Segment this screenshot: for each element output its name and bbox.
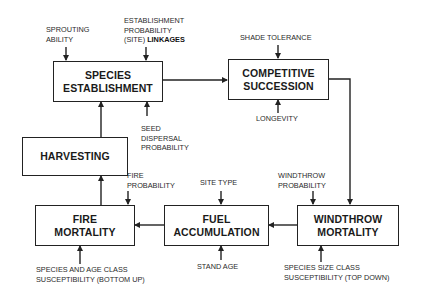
label-text: (SITE) bbox=[124, 35, 145, 44]
label-line: SHADE TOLERANCE bbox=[240, 33, 312, 43]
label-line: FIRE bbox=[127, 171, 175, 181]
site-type-label: SITE TYPE bbox=[200, 178, 237, 188]
box-label-line: COMPETITIVE bbox=[242, 67, 314, 80]
box-label-line: SPECIES bbox=[63, 69, 153, 82]
box-label-line: SUCCESSION bbox=[242, 80, 314, 93]
label-line: SPROUTING bbox=[46, 25, 89, 35]
fuel-accumulation-box: FUEL ACCUMULATION bbox=[164, 205, 269, 246]
fire-probability-label: FIRE PROBABILITY bbox=[127, 171, 175, 190]
label-line: DISPERSAL bbox=[141, 134, 189, 144]
box-label-line: FUEL bbox=[173, 213, 259, 226]
label-line: SUSCEPTIBILITY (BOTTOM UP) bbox=[36, 275, 145, 285]
label-line: SPECIES AND AGE CLASS bbox=[36, 265, 145, 275]
label-line: WINDTHROW bbox=[278, 171, 326, 181]
label-line: PROBABILITY bbox=[124, 26, 185, 36]
longevity-label: LONGEVITY bbox=[256, 114, 298, 124]
windthrow-mortality-box: WINDTHROW MORTALITY bbox=[297, 205, 399, 246]
label-line: (SITE) LINKAGES bbox=[124, 35, 185, 45]
stand-age-label: STAND AGE bbox=[197, 262, 238, 272]
label-line: STAND AGE bbox=[197, 262, 238, 272]
forest-dynamics-diagram: SPECIES ESTABLISHMENT COMPETITIVE SUCCES… bbox=[0, 0, 421, 302]
box-label-line: MORTALITY bbox=[314, 226, 383, 239]
box-label-line: FIRE bbox=[54, 213, 115, 226]
shade-tolerance-label: SHADE TOLERANCE bbox=[240, 33, 312, 43]
box-label-line: HARVESTING bbox=[40, 150, 110, 163]
species-age-class-label: SPECIES AND AGE CLASS SUSCEPTIBILITY (BO… bbox=[36, 265, 145, 284]
label-line: PROBABILITY bbox=[127, 181, 175, 191]
linkages-bold-text: LINKAGES bbox=[147, 35, 185, 44]
label-line: SUSCEPTIBILITY (TOP DOWN) bbox=[284, 273, 389, 283]
label-line: SPECIES SIZE CLASS bbox=[284, 263, 389, 273]
species-establishment-box: SPECIES ESTABLISHMENT bbox=[53, 61, 163, 102]
sprouting-ability-label: SPROUTING ABILITY bbox=[46, 25, 89, 44]
label-line: ESTABLISHMENT bbox=[124, 16, 185, 26]
arrow-succession-to-windthrow bbox=[329, 79, 350, 204]
label-line: ABILITY bbox=[46, 35, 89, 45]
fire-mortality-box: FIRE MORTALITY bbox=[35, 205, 135, 246]
label-line: PROBABILITY bbox=[278, 181, 326, 191]
seed-dispersal-label: SEED DISPERSAL PROBABILITY bbox=[141, 124, 189, 153]
box-label-line: ACCUMULATION bbox=[173, 226, 259, 239]
harvesting-box: HARVESTING bbox=[22, 137, 128, 176]
box-label-line: MORTALITY bbox=[54, 226, 115, 239]
label-line: SEED bbox=[141, 124, 189, 134]
label-line: SITE TYPE bbox=[200, 178, 237, 188]
box-label-line: ESTABLISHMENT bbox=[63, 82, 153, 95]
species-size-class-label: SPECIES SIZE CLASS SUSCEPTIBILITY (TOP D… bbox=[284, 263, 389, 282]
label-line: LONGEVITY bbox=[256, 114, 298, 124]
label-line: PROBABILITY bbox=[141, 143, 189, 153]
competitive-succession-box: COMPETITIVE SUCCESSION bbox=[228, 59, 329, 100]
windthrow-probability-label: WINDTHROW PROBABILITY bbox=[278, 171, 326, 190]
establishment-probability-label: ESTABLISHMENT PROBABILITY (SITE) LINKAGE… bbox=[124, 16, 185, 45]
box-label-line: WINDTHROW bbox=[314, 213, 383, 226]
